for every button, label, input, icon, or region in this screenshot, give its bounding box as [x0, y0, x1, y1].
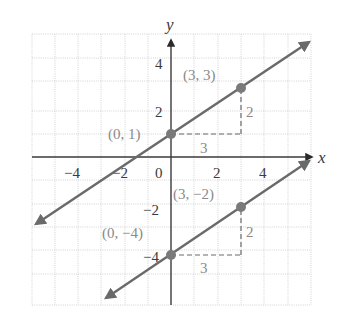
run-label: 3: [200, 260, 208, 276]
y-tick-label: 2: [155, 104, 163, 120]
lower-line-series: (0, −4) (3, −2) 2 3: [102, 161, 309, 298]
point-0-1: [166, 129, 176, 139]
y-axis-title: y: [164, 15, 174, 34]
y-tick-label: 4: [155, 56, 163, 72]
x-tick-label: −4: [64, 165, 80, 181]
point-label: (0, −4): [102, 225, 143, 242]
y-tick-label: −2: [143, 202, 159, 218]
point-label: (3, −2): [173, 186, 214, 203]
rise-label: 2: [246, 224, 254, 240]
x-tick-label: 2: [213, 165, 221, 181]
run-label: 3: [200, 140, 208, 156]
point-label: (0, 1): [108, 126, 141, 143]
point-3-m2: [236, 202, 246, 212]
point-label: (3, 3): [183, 67, 216, 84]
origin-label: 0: [155, 165, 163, 181]
point-0-m4: [166, 250, 176, 260]
rise-label: 2: [246, 104, 254, 120]
coordinate-plane: x y −4 −2 0 2 4 4 2 −2 −4 (0, 1) (3, 3) …: [0, 0, 345, 318]
point-3-3: [236, 83, 246, 93]
x-tick-label: 4: [259, 165, 267, 181]
x-axis-title: x: [317, 148, 326, 167]
